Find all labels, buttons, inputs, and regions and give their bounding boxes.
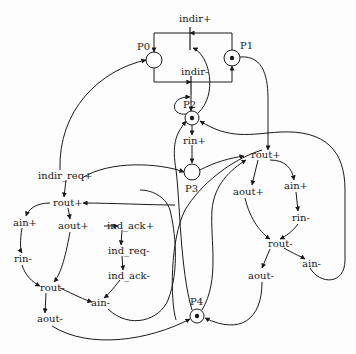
transition-indir-minus: indir- xyxy=(181,66,208,77)
transition-left-rout-plus: rout+ xyxy=(53,197,83,208)
transition-right-rout-plus: rout+ xyxy=(251,149,281,160)
transition-right-ain-plus: ain+ xyxy=(284,180,308,191)
place-label-p2: P2 xyxy=(183,99,196,110)
transition-right-aout-plus: aout+ xyxy=(233,186,264,197)
place-label-p3: P3 xyxy=(185,183,198,194)
transition-left-aout-minus: aout- xyxy=(37,313,63,324)
place-label-p0: P0 xyxy=(137,41,150,52)
place-p1 xyxy=(224,50,240,66)
place-p2 xyxy=(185,111,199,125)
transition-left-aout-plus: aout+ xyxy=(58,220,89,231)
transition-ind-ack-minus: ind_ack- xyxy=(108,270,150,282)
place-p4 xyxy=(190,309,204,323)
place-p0 xyxy=(146,52,162,68)
transition-left-rout-minus: rout- xyxy=(40,282,65,293)
transition-right-ain-minus: ain- xyxy=(302,258,321,269)
transition-indir-plus: indir+ xyxy=(179,13,211,24)
petri-net-diagram: indir+ P0 P1 indir- P2 rin+ P3 rout+ aou… xyxy=(0,0,356,354)
place-p3 xyxy=(184,164,200,180)
transition-ind-ack-plus: ind_ack+ xyxy=(107,220,154,232)
transition-left-rin-minus: rin- xyxy=(14,253,32,264)
place-label-p4: P4 xyxy=(190,296,203,307)
transition-right-rin-minus: rin- xyxy=(292,212,310,223)
transition-right-rout-minus: rout- xyxy=(268,238,293,249)
transition-ind-req-minus: ind_req- xyxy=(108,245,150,257)
transition-right-aout-minus: aout- xyxy=(248,270,274,281)
token-icon xyxy=(195,314,199,318)
transition-indir-req-plus: indir_req+ xyxy=(38,170,93,182)
place-label-p1: P1 xyxy=(240,40,253,51)
transition-rin-plus: rin+ xyxy=(183,135,206,146)
token-icon xyxy=(230,56,234,60)
transition-left-ain-minus: ain- xyxy=(91,297,110,308)
transition-left-ain-plus: ain+ xyxy=(13,217,37,228)
mutex-box xyxy=(154,27,232,95)
token-icon xyxy=(190,116,194,120)
